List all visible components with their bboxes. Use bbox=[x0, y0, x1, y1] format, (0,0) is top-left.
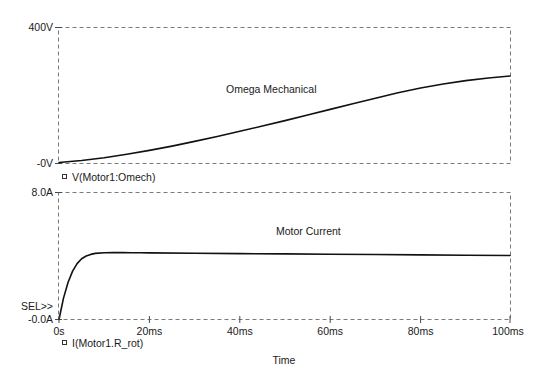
xtick-label-20ms: 20ms bbox=[137, 325, 163, 337]
xtick-label-100ms: 100ms bbox=[492, 325, 524, 337]
motor-current-annotation: Motor Current bbox=[276, 225, 341, 237]
omega-ytick-label-min: -0V bbox=[37, 157, 53, 169]
omega-legend-square-marker bbox=[63, 175, 67, 179]
motor-legend-square-marker bbox=[63, 341, 67, 345]
sel-marker[interactable]: SEL>> bbox=[21, 300, 53, 312]
omega-legend-label: V(Motor1:Omech) bbox=[72, 171, 155, 183]
motor-legend-label: I(Motor1.R_rot) bbox=[72, 337, 143, 349]
xtick-label-40ms: 40ms bbox=[227, 325, 253, 337]
omega-ytick-label-max: 400V bbox=[28, 21, 53, 33]
motor-panel-grid-border bbox=[59, 193, 511, 320]
motor-current-legend[interactable]: I(Motor1.R_rot) bbox=[63, 337, 144, 349]
xtick-label-0: 0s bbox=[53, 325, 64, 337]
motor-ytick-label-max: 8.0A bbox=[31, 186, 53, 198]
omega-legend[interactable]: V(Motor1:Omech) bbox=[63, 171, 156, 183]
omega-mechanical-panel: 400V -0V Omega Mechanical bbox=[28, 21, 510, 169]
motor-ytick-label-min: -0.0A bbox=[28, 313, 53, 325]
motor-current-trace bbox=[59, 253, 510, 320]
plot-canvas: 400V -0V Omega Mechanical V(Motor1:Omech… bbox=[0, 0, 548, 377]
xtick-label-80ms: 80ms bbox=[408, 325, 434, 337]
x-axis-title: Time bbox=[273, 354, 296, 366]
motor-current-panel: 8.0A -0.0A SEL>> Motor Current bbox=[21, 186, 511, 325]
omega-mechanical-annotation: Omega Mechanical bbox=[226, 83, 316, 95]
pspice-probe-plot-window: 400V -0V Omega Mechanical V(Motor1:Omech… bbox=[0, 0, 548, 377]
xtick-label-60ms: 60ms bbox=[317, 325, 343, 337]
omega-panel-grid-border bbox=[59, 28, 511, 164]
